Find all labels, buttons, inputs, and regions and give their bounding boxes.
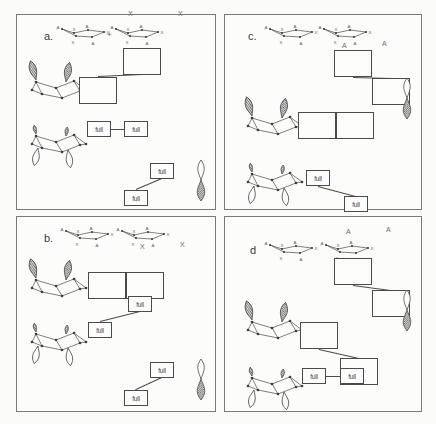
svg-text:A: A (96, 243, 99, 248)
energy-level-box[interactable] (123, 48, 161, 75)
energy-level-box[interactable] (334, 258, 372, 285)
svg-text:X: X (107, 30, 110, 35)
svg-text:A: A (294, 240, 297, 245)
svg-text:X: X (72, 40, 75, 45)
energy-level-box[interactable]: full (150, 362, 174, 378)
svg-text:X: X (76, 242, 79, 247)
ring-structure: AXAXAX (322, 238, 374, 260)
svg-text:X: X (73, 27, 76, 32)
svg-text:X: X (280, 256, 283, 261)
energy-level-box[interactable]: full (124, 121, 148, 137)
cage-fragment (238, 152, 308, 204)
energy-level-box[interactable]: full (340, 368, 364, 384)
svg-text:A: A (146, 41, 149, 46)
substituent-marker: A (346, 228, 351, 235)
svg-text:X: X (127, 27, 130, 32)
cage-fragment (22, 114, 92, 166)
energy-level-box[interactable]: full (150, 163, 174, 179)
energy-level-box[interactable] (79, 77, 117, 104)
level-connector (111, 129, 124, 130)
ring-structure: AXAXAX (118, 224, 170, 246)
svg-text:A: A (146, 226, 149, 231)
substituent-marker: X (128, 10, 133, 17)
level-connector (326, 376, 340, 377)
energy-level-box[interactable]: full (306, 170, 330, 186)
energy-level-box[interactable]: full (124, 390, 148, 406)
ring-structure: AXAXAX (62, 224, 114, 246)
panel-label-d: d (250, 244, 256, 256)
ring-structure: AXAXAX (266, 238, 318, 260)
substituent-marker: A (386, 226, 391, 233)
svg-text:A: A (90, 226, 93, 231)
svg-text:A: A (300, 41, 303, 46)
svg-text:X: X (369, 30, 372, 35)
svg-text:X: X (337, 243, 340, 248)
cage-fragment (238, 356, 308, 408)
svg-text:X: X (281, 243, 284, 248)
svg-text:X: X (280, 40, 283, 45)
energy-level-box[interactable] (126, 272, 164, 299)
substituent-marker: X (178, 10, 183, 17)
svg-text:A: A (265, 25, 268, 30)
svg-text:A: A (350, 240, 353, 245)
energy-level-box[interactable] (336, 112, 374, 139)
svg-text:A: A (152, 243, 155, 248)
energy-level-box[interactable] (334, 50, 372, 77)
svg-text:X: X (133, 229, 136, 234)
svg-text:X: X (315, 246, 318, 251)
ring-structure: AXAXAX (320, 22, 372, 44)
svg-text:X: X (281, 27, 284, 32)
svg-text:A: A (57, 25, 60, 30)
svg-text:A: A (140, 24, 143, 29)
svg-text:A: A (348, 24, 351, 29)
svg-text:X: X (161, 30, 164, 35)
svg-text:A: A (354, 41, 357, 46)
energy-level-box[interactable]: full (128, 296, 152, 312)
energy-level-box[interactable]: full (124, 190, 148, 206)
svg-text:X: X (315, 30, 318, 35)
ring-structure: AXAXAX (266, 22, 318, 44)
ring-structure: AXAXAX (58, 22, 110, 44)
substituent-marker: A (382, 40, 387, 47)
svg-text:A: A (111, 25, 114, 30)
panel-label-a: a. (44, 30, 53, 42)
svg-text:X: X (334, 40, 337, 45)
figure-canvas: a. b. c. d + XXAXAXAXAXAXAXfullfullfullf… (0, 0, 436, 424)
svg-text:X: X (167, 232, 170, 237)
svg-text:A: A (319, 25, 322, 30)
cage-fragment (22, 258, 92, 310)
energy-level-box[interactable]: full (88, 322, 112, 338)
svg-text:A: A (61, 227, 64, 232)
svg-text:A: A (300, 257, 303, 262)
svg-text:A: A (294, 24, 297, 29)
substituent-marker: X (180, 241, 185, 248)
cage-fragment (22, 312, 92, 364)
svg-text:A: A (86, 24, 89, 29)
energy-level-box[interactable] (298, 112, 336, 139)
svg-text:X: X (335, 27, 338, 32)
energy-level-box[interactable]: full (87, 121, 111, 137)
ring-structure: AXAXAX (112, 22, 164, 44)
svg-text:A: A (117, 227, 120, 232)
energy-level-box[interactable]: full (302, 368, 326, 384)
svg-text:X: X (132, 242, 135, 247)
cage-fragment (238, 300, 308, 352)
svg-text:A: A (265, 241, 268, 246)
p-orbital (190, 158, 212, 202)
svg-text:X: X (371, 246, 374, 251)
p-orbital (190, 357, 212, 401)
svg-text:X: X (126, 40, 129, 45)
svg-text:X: X (77, 229, 80, 234)
svg-text:X: X (111, 232, 114, 237)
panel-label-b: b. (44, 232, 53, 244)
energy-level-box[interactable] (88, 272, 126, 299)
svg-text:A: A (321, 241, 324, 246)
p-orbital (396, 76, 418, 120)
svg-text:A: A (92, 41, 95, 46)
energy-level-box[interactable] (300, 322, 338, 349)
p-orbital (396, 288, 418, 332)
energy-level-box[interactable]: full (344, 196, 368, 212)
panel-label-c: c. (248, 30, 257, 42)
